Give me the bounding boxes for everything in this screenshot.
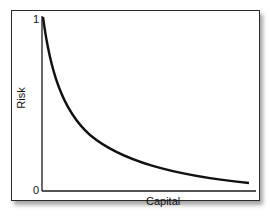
plot-area <box>0 0 270 222</box>
x-axis-label: Capital <box>146 195 180 207</box>
y-axis-label: Risk <box>15 87 27 108</box>
risk-curve <box>43 17 249 183</box>
y-tick-1: 1 <box>33 13 39 25</box>
y-tick-0: 0 <box>33 184 39 196</box>
